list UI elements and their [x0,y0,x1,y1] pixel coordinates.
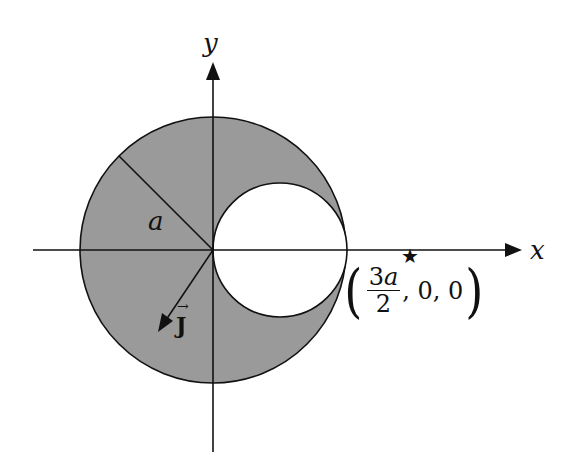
vector-arrow-glyph: → [177,298,189,314]
close-paren: ) [466,262,484,320]
open-paren: ( [344,262,362,320]
fraction-numerator: 3a [367,264,401,291]
point-coordinate-label: ( 3a 2 , 0, 0 ) [342,262,486,320]
x-axis-arrow-icon [505,243,522,257]
coordinate-rest: , 0, 0 [402,277,463,305]
y-axis-label: y [203,28,218,58]
x-axis-label: x [530,235,545,265]
numerator-number: 3 [369,263,384,291]
radius-label: a [148,206,164,236]
vector-label: → J [176,312,186,338]
vector-letter: J [176,312,186,338]
fraction-denominator: 2 [376,291,391,319]
diagram-canvas: ★ [0,0,577,473]
numerator-variable: a [384,263,398,291]
y-axis-arrow-icon [206,62,220,80]
fraction: 3a 2 [367,264,401,319]
